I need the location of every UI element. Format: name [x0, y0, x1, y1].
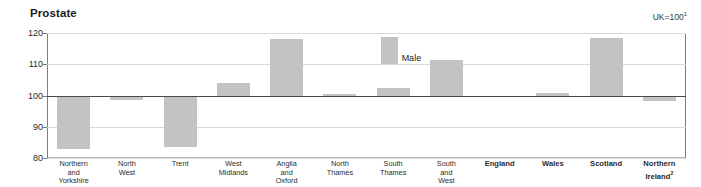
bar — [270, 39, 303, 96]
gridline-90 — [47, 127, 686, 128]
plot-area: Male — [47, 33, 686, 158]
y-tick-label-80: 80 — [21, 153, 43, 163]
bar — [430, 60, 463, 96]
male-legend-label: Male — [402, 53, 422, 63]
chart-title: Prostate — [30, 7, 77, 19]
gridline-120 — [47, 33, 686, 34]
y-tick-mark-80 — [43, 158, 47, 159]
x-category-label: North West — [100, 160, 153, 177]
bar — [590, 38, 623, 96]
x-category-label: South Thames — [367, 160, 420, 177]
y-tick-label-100: 100 — [21, 91, 43, 101]
x-category-label: Trent — [154, 160, 207, 169]
x-category-label: Anglia and Oxford — [260, 160, 313, 186]
x-category-label: North Thames — [313, 160, 366, 177]
uk-index-note-text: UK=100 — [653, 12, 684, 22]
y-tick-mark-120 — [43, 33, 47, 34]
x-category-label: South and West — [420, 160, 473, 186]
chart-container: Prostate UK=1001 Male 8090100110120 Nort… — [0, 0, 701, 187]
y-tick-label-90: 90 — [21, 122, 43, 132]
uk-index-note-superscript: 1 — [684, 11, 687, 17]
y-tick-mark-110 — [43, 64, 47, 65]
male-legend-swatch — [381, 37, 398, 63]
x-category-label: Scotland — [580, 160, 633, 169]
bar — [217, 83, 250, 96]
bar — [164, 96, 197, 148]
bar — [57, 96, 90, 149]
x-category-label: West Midlands — [207, 160, 260, 177]
x-category-label: England — [473, 160, 526, 169]
uk-index-note: UK=1001 — [653, 11, 687, 22]
x-category-label: Northern Ireland2 — [633, 160, 686, 181]
bar — [377, 88, 410, 96]
x-category-label: Northern and Yorkshire — [47, 160, 100, 186]
y-tick-mark-90 — [43, 127, 47, 128]
y-tick-label-110: 110 — [21, 59, 43, 69]
y-tick-label-120: 120 — [21, 28, 43, 38]
x-category-label: Wales — [526, 160, 579, 169]
baseline-100 — [47, 96, 686, 97]
x-category-superscript: 2 — [670, 170, 673, 176]
